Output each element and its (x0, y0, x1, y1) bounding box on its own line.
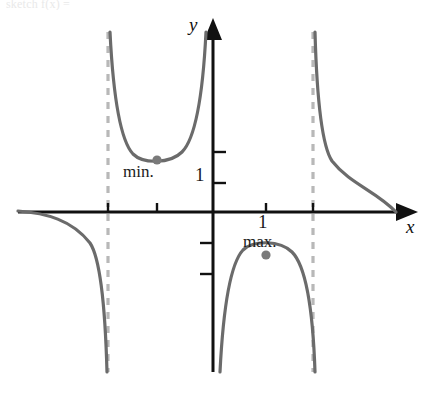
curve-upper-left-branch (110, 32, 206, 161)
curve-far-right-branch (315, 32, 396, 212)
minimum-point (152, 155, 161, 164)
y-unit-tick-label: 1 (195, 164, 205, 186)
axis-group (18, 18, 418, 372)
maximum-label: max. (243, 232, 277, 252)
curve-group (18, 32, 396, 372)
function-graph-svg (0, 0, 428, 398)
curve-far-left-branch (18, 211, 107, 372)
curve-lower-right-branch (220, 243, 315, 372)
minimum-label: min. (123, 162, 154, 182)
x-unit-tick-label: 1 (258, 211, 268, 233)
figure-canvas: sketch f(x) = (0, 0, 428, 398)
x-axis-label: x (406, 216, 414, 238)
asymptote-group (108, 32, 313, 372)
y-axis-label: y (189, 14, 197, 36)
